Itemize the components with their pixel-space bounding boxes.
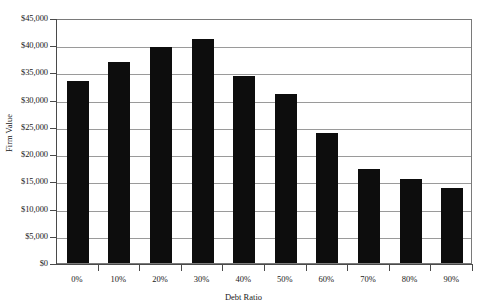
y-axis-tick (50, 128, 57, 129)
x-axis-tick (222, 265, 223, 271)
bar (441, 188, 463, 263)
y-axis-tick (50, 264, 57, 265)
plot-area (56, 19, 472, 264)
bar (316, 133, 338, 263)
bar (275, 94, 297, 263)
x-axis-tick (472, 265, 473, 271)
x-axis-tick (389, 265, 390, 271)
y-axis-tick (50, 46, 57, 47)
y-axis-tick (50, 210, 57, 211)
bar (108, 62, 130, 263)
y-axis-tick-label: $30,000 (2, 95, 48, 105)
y-axis-tick-label: $45,000 (2, 13, 48, 23)
x-axis-tick-label: 20% (139, 274, 181, 284)
y-axis-tick (50, 182, 57, 183)
x-axis-title: Debt Ratio (0, 292, 487, 302)
y-axis-tick-label: $25,000 (2, 122, 48, 132)
y-axis-label-group: Firm Value $0$5,000$10,000$15,000$20,000… (0, 0, 48, 308)
y-axis-tick-label: $35,000 (2, 67, 48, 77)
y-axis-tick (50, 101, 57, 102)
x-axis-tick-label: 0% (56, 274, 98, 284)
y-axis-tick-label: $40,000 (2, 40, 48, 50)
bar (358, 169, 380, 263)
x-axis-tick-label: 60% (305, 274, 347, 284)
x-axis-tick (264, 265, 265, 271)
x-axis-tick-label: 40% (222, 274, 264, 284)
x-axis-tick-label: 10% (97, 274, 139, 284)
x-axis-tick-label: 30% (181, 274, 223, 284)
y-axis-tick (50, 155, 57, 156)
x-axis-tick-label: 50% (264, 274, 306, 284)
y-axis-tick-label: $5,000 (2, 231, 48, 241)
gridline (57, 47, 471, 48)
x-axis-tick (306, 265, 307, 271)
y-axis-tick (50, 237, 57, 238)
chart-page: Firm Value $0$5,000$10,000$15,000$20,000… (0, 0, 487, 308)
x-axis-tick (181, 265, 182, 271)
bar (233, 76, 255, 263)
y-axis-tick-label: $10,000 (2, 204, 48, 214)
x-axis-tick (98, 265, 99, 271)
y-axis-line (56, 19, 57, 265)
x-axis-tick-label: 70% (347, 274, 389, 284)
bar (192, 39, 214, 263)
y-axis-tick-label: $20,000 (2, 149, 48, 159)
bar (150, 47, 172, 263)
y-axis-tick (50, 19, 57, 20)
x-axis-tick (430, 265, 431, 271)
x-axis-tick-label: 80% (389, 274, 431, 284)
x-axis-tick-label: 90% (430, 274, 472, 284)
y-axis-tick-label: $15,000 (2, 176, 48, 186)
x-axis-tick (139, 265, 140, 271)
bar (67, 81, 89, 263)
y-axis-tick (50, 73, 57, 74)
bar (400, 179, 422, 263)
y-axis-tick-label: $0 (2, 258, 48, 268)
x-axis-tick (347, 265, 348, 271)
